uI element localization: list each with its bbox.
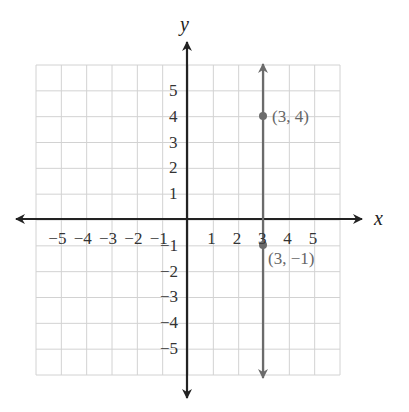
x-tick-label: −5: [48, 230, 66, 247]
x-tick-label: 1: [207, 230, 216, 247]
x-tick-label: −2: [124, 230, 142, 247]
y-tick-label: 5: [169, 82, 178, 99]
x-tick-label: 4: [283, 230, 292, 247]
y-tick-label: −4: [160, 314, 178, 331]
y-axis-label: y: [180, 14, 189, 34]
y-tick-label: 3: [169, 134, 178, 151]
y-tick-label: −5: [160, 340, 178, 357]
y-tick-label: −3: [160, 288, 178, 305]
x-axis-label: x: [374, 208, 383, 228]
x-tick-label: 3: [258, 230, 267, 247]
y-tick-label: −2: [160, 263, 178, 280]
y-tick-label: −1: [160, 237, 178, 254]
x-tick-label: −4: [74, 230, 92, 247]
point-label-3-4: (3, 4): [272, 108, 309, 125]
x-tick-label: −3: [99, 230, 117, 247]
x-tick-label: 5: [309, 230, 318, 247]
point-3-4: [259, 112, 267, 120]
coordinate-plane: [0, 0, 409, 412]
y-tick-label: 1: [169, 185, 178, 202]
y-tick-label: 2: [169, 159, 178, 176]
y-tick-label: 4: [169, 108, 178, 125]
x-tick-label: 2: [233, 230, 242, 247]
point-label-3-neg1: (3, −1): [268, 250, 314, 267]
